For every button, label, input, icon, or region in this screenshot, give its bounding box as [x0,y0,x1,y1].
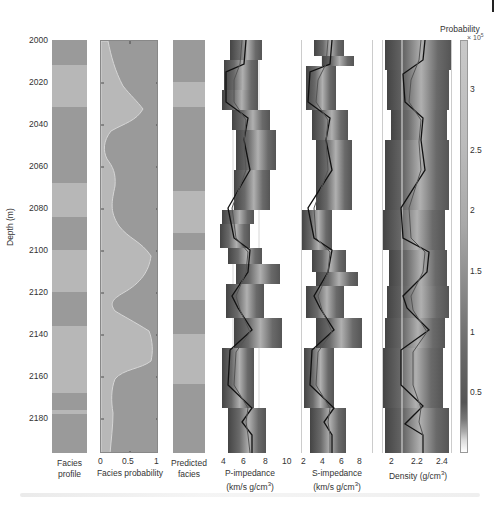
colorbar-tick: 2.5 [470,145,482,155]
page-edge-mark [492,0,494,12]
y-tick: 2160 [18,371,48,381]
s-impedance-xlabel: S-impedance (km/s g/cm3) [302,468,372,493]
p-impedance-plot [220,40,298,453]
colorbar [460,40,468,453]
label-line: profile [42,469,97,480]
x-tick: 0 [98,456,103,466]
s-impedance-panel [301,40,373,453]
density-plot [383,40,452,453]
facies-probability-panel [100,40,158,453]
colorbar-tick: 1.5 [470,266,482,276]
exponent-power: 5 [481,32,484,38]
facies-probability-xlabel: Facies probability [92,468,168,479]
y-tick: 2040 [18,119,48,129]
label-end: ) [271,482,274,492]
facies-profile-plot [52,40,87,453]
y-axis-label: Depth (m) [5,186,15,246]
label-line: (km/s g/cm3) [302,479,372,493]
label-line: facies [163,469,215,480]
label-units: (km/s g/cm [313,482,355,492]
label-text: Density (g/cm [389,471,441,481]
label-units: (km/s g/cm [226,482,268,492]
label-line: S-impedance [302,468,372,479]
colorbar-tick: 1 [470,327,475,337]
y-tick: 2140 [18,329,48,339]
facies-profile-panel [52,40,87,453]
predicted-facies-xlabel: Predicted facies [163,458,215,480]
y-tick: 2000 [18,35,48,45]
density-panel [382,40,452,453]
label-end: ) [444,471,447,481]
y-tick: 2080 [18,203,48,213]
x-tick: 6 [339,456,344,466]
exponent-base: × 10 [467,34,481,41]
y-tick: 2180 [18,413,48,423]
predicted-facies-plot [173,40,205,453]
colorbar-tick: 3 [470,84,475,94]
y-tick: 2100 [18,245,48,255]
x-tick: 2 [389,456,394,466]
x-tick: 4 [221,456,226,466]
y-tick: 2020 [18,77,48,87]
x-tick: 1 [154,456,159,466]
x-tick: 0.5 [122,456,134,466]
y-axis-label-text: Depth (m) [5,208,15,246]
label-line: (km/s g/cm3) [215,479,285,493]
colorbar-tick: 0.5 [470,387,482,397]
caption-fragment [20,493,480,497]
p-impedance-panel [220,40,298,453]
facies-probability-plot [101,41,158,453]
label-line: P-impedance [215,468,285,479]
colorbar-tick: 2 [470,205,475,215]
colorbar-exponent: × 105 [467,32,484,41]
p-impedance-xlabel: P-impedance (km/s g/cm3) [215,468,285,493]
y-tick: 2060 [18,161,48,171]
label-end: ) [358,482,361,492]
predicted-facies-panel [173,40,205,453]
label-line: Facies [42,458,97,469]
x-tick: 4 [320,456,325,466]
x-tick: 2.4 [436,456,448,466]
label-line: Predicted [163,458,215,469]
x-tick: 8 [357,456,362,466]
x-tick: 6 [241,456,246,466]
y-tick: 2120 [18,287,48,297]
s-impedance-plot [302,40,373,453]
x-tick: 2 [301,456,306,466]
x-tick: 2.2 [411,456,423,466]
density-xlabel: Density (g/cm3) [378,468,458,482]
x-tick: 10 [282,456,291,466]
x-tick: 8 [263,456,268,466]
facies-profile-xlabel: Facies profile [42,458,97,480]
